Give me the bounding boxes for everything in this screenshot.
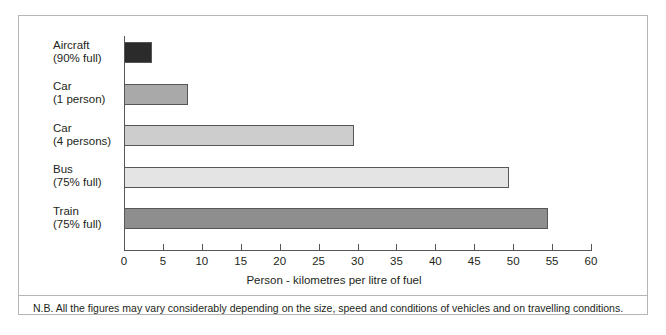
x-tick-45 — [474, 244, 475, 251]
x-tick-label-60: 60 — [576, 255, 606, 267]
bar-aircraft — [124, 42, 152, 63]
x-tick-30 — [358, 244, 359, 251]
bar-train — [124, 208, 548, 229]
bar-bus — [124, 167, 509, 188]
chart-footnote: N.B. All the figures may vary considerab… — [33, 302, 637, 315]
x-tick-40 — [435, 244, 436, 251]
bar-car-4-persons — [124, 125, 354, 146]
x-tick-35 — [396, 244, 397, 251]
x-tick-label-20: 20 — [265, 255, 295, 267]
x-tick-60 — [591, 244, 592, 251]
x-tick-label-5: 5 — [148, 255, 178, 267]
x-tick-10 — [202, 244, 203, 251]
x-tick-0 — [124, 244, 125, 251]
plot-area: Aircraft (90% full) Car (1 person) Car (… — [19, 16, 649, 266]
x-tick-label-40: 40 — [420, 255, 450, 267]
x-tick-label-45: 45 — [459, 255, 489, 267]
x-tick-50 — [513, 244, 514, 251]
chart-figure: Aircraft (90% full) Car (1 person) Car (… — [18, 15, 648, 315]
x-tick-label-50: 50 — [498, 255, 528, 267]
x-tick-label-10: 10 — [187, 255, 217, 267]
x-tick-label-35: 35 — [381, 255, 411, 267]
x-tick-15 — [241, 244, 242, 251]
x-tick-label-15: 15 — [226, 255, 256, 267]
footnote-divider — [19, 295, 647, 296]
x-axis-title: Person - kilometres per litre of fuel — [19, 274, 649, 286]
x-tick-20 — [280, 244, 281, 251]
bar-car-1-person — [124, 84, 188, 105]
x-tick-label-0: 0 — [109, 255, 139, 267]
x-tick-55 — [552, 244, 553, 251]
x-tick-label-25: 25 — [304, 255, 334, 267]
x-tick-label-30: 30 — [343, 255, 373, 267]
x-tick-25 — [319, 244, 320, 251]
x-tick-label-55: 55 — [537, 255, 567, 267]
x-tick-5 — [163, 244, 164, 251]
